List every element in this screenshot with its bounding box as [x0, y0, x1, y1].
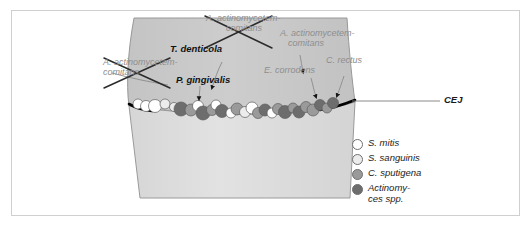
- colony-s_mitis: [149, 100, 162, 113]
- legend-label-actinomyces-line1: Actinomy-: [368, 182, 410, 193]
- legend-label-c-sputigena: C. sputigena: [368, 168, 421, 179]
- label-aa-left-line2: comitans: [103, 68, 139, 78]
- label-aa-right-line2: comitans: [288, 39, 324, 49]
- legend-label-s-sanguinis: S. sanguinis: [368, 153, 420, 164]
- colony-actinomyces: [328, 98, 339, 109]
- legend-swatch-s-mitis: [352, 139, 363, 150]
- legend-item-s-sanguinis: S. sanguinis: [352, 153, 462, 167]
- legend-item-actinomyces: Actinomy-ces spp.: [352, 183, 462, 208]
- figure-root: A. actinomycetem- comitans A. actinomyce…: [0, 0, 531, 226]
- label-p-gingivalis: P. gingivalis: [176, 75, 230, 85]
- legend: S. mitis S. sanguinis C. sputigena Actin…: [352, 138, 462, 209]
- legend-swatch-s-sanguinis: [352, 154, 363, 165]
- label-t-denticola: T. denticola: [170, 44, 222, 54]
- legend-item-s-mitis: S. mitis: [352, 138, 462, 152]
- legend-item-c-sputigena: C. sputigena: [352, 168, 462, 182]
- label-c-rectus: C. rectus: [326, 56, 362, 66]
- legend-swatch-c-sputigena: [352, 169, 363, 180]
- legend-label-s-mitis: S. mitis: [368, 138, 399, 149]
- label-cej: CEJ: [444, 95, 462, 105]
- colony-s_sanguinis: [160, 99, 170, 109]
- label-e-corrodens: E. corrodens: [264, 66, 315, 76]
- legend-label-actinomyces-line2: ces spp.: [368, 193, 403, 204]
- label-aa-top-line2: comitans: [226, 24, 262, 34]
- legend-label-actinomyces: Actinomy-ces spp.: [368, 183, 410, 204]
- legend-swatch-actinomyces: [352, 184, 363, 195]
